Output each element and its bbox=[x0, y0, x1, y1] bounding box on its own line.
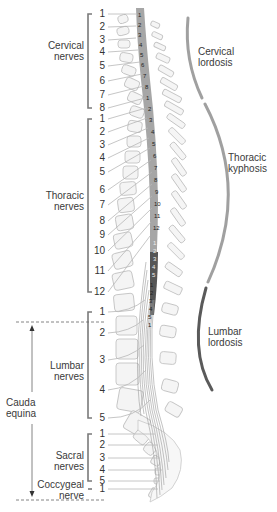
cord-segment-number: 2 bbox=[153, 248, 156, 254]
sacral-nerve-number: 1 bbox=[91, 429, 105, 439]
cord-segment-number: 4 bbox=[152, 264, 155, 270]
cervical-nerve-number: 8 bbox=[91, 103, 105, 113]
coccygeal-nerve-label: Coccygeal nerve bbox=[30, 479, 84, 501]
label-line: Lumbar bbox=[32, 360, 84, 371]
cord-segment-number: 2 bbox=[148, 106, 151, 112]
lumbar-nerve-number: 2 bbox=[91, 328, 105, 338]
cord-segment-number: 4 bbox=[151, 129, 154, 135]
cord-segment-number: 4 bbox=[139, 42, 142, 48]
cervical-nerve-number: 3 bbox=[91, 35, 105, 45]
cord-segment-number: 1 bbox=[148, 322, 151, 328]
thoracic-nerve-number: 2 bbox=[91, 127, 105, 137]
thoracic-nerve-number: 1 bbox=[91, 114, 105, 124]
thoracic-nerve-number: 3 bbox=[91, 140, 105, 150]
cord-segment-number: 3 bbox=[149, 117, 152, 123]
lumbar-nerve-number: 1 bbox=[91, 307, 105, 317]
cord-segment-number: 9 bbox=[155, 189, 158, 195]
cord-segment-number: 2 bbox=[138, 22, 141, 28]
lumbar-nerve-number: 3 bbox=[91, 355, 105, 365]
sacral-nerves-label: Sacral nerves bbox=[32, 450, 84, 472]
lumbar-nerves-label: Lumbar nerves bbox=[32, 360, 84, 382]
thoracic-kyphosis-curve bbox=[205, 104, 228, 282]
thoracic-nerve-number: 5 bbox=[91, 167, 105, 177]
cervical-nerve-number: 4 bbox=[91, 47, 105, 57]
label-line: nerves bbox=[32, 461, 84, 472]
thoracic-nerve-number: 11 bbox=[91, 266, 105, 276]
thoracic-nerve-number: 8 bbox=[91, 216, 105, 226]
sacral-nerve-number: 3 bbox=[91, 453, 105, 463]
coccygeal-nerve-number: 1 bbox=[91, 484, 105, 494]
diagram-graphics bbox=[0, 0, 277, 512]
cord-segment-number: 4 bbox=[149, 306, 152, 312]
cord-segment-number: 3 bbox=[153, 256, 156, 262]
cord-segment-number: 3 bbox=[138, 32, 141, 38]
label-line: Cervical bbox=[32, 40, 84, 51]
label-line: lordosis bbox=[198, 57, 234, 68]
label-line: Thoracic bbox=[32, 190, 84, 201]
label-line: Sacral bbox=[32, 450, 84, 461]
cord-segment-number: 1 bbox=[150, 282, 153, 288]
cord-segment-number: 5 bbox=[152, 272, 155, 278]
cord-segment-number: 8 bbox=[145, 84, 148, 90]
cord-segment-number: 10 bbox=[154, 201, 161, 207]
cervical-nerve-number: 2 bbox=[91, 22, 105, 32]
label-line: nerves bbox=[32, 371, 84, 382]
label-line: nerves bbox=[32, 51, 84, 62]
label-line: Cauda bbox=[6, 397, 58, 408]
sacral-nerve-number: 2 bbox=[91, 440, 105, 450]
thoracic-nerves-label: Thoracic nerves bbox=[32, 190, 84, 212]
thoracic-kyphosis-label: Thoracic kyphosis bbox=[228, 152, 267, 174]
cord-segment-number: 3 bbox=[149, 298, 152, 304]
cord-segment-number: 1 bbox=[153, 240, 156, 246]
cervical-nerve-number: 1 bbox=[91, 9, 105, 19]
cervical-nerve-number: 6 bbox=[91, 76, 105, 86]
thoracic-nerve-number: 4 bbox=[91, 153, 105, 163]
cord-segment-number: 1 bbox=[146, 95, 149, 101]
thoracic-nerve-number: 6 bbox=[91, 185, 105, 195]
label-line: Thoracic bbox=[228, 152, 267, 163]
cord-segment-number: 12 bbox=[153, 225, 160, 231]
cord-segment-number: 7 bbox=[154, 165, 157, 171]
label-line: equina bbox=[6, 408, 58, 419]
cervical-nerve-number: 5 bbox=[91, 61, 105, 71]
cord-segment-number: 11 bbox=[154, 213, 160, 219]
thoracic-nerve-number: 10 bbox=[91, 246, 105, 256]
label-line: nerves bbox=[32, 201, 84, 212]
label-line: Coccygeal bbox=[30, 479, 84, 490]
lumbar-lordosis-label: Lumbar lordosis bbox=[208, 326, 242, 348]
thoracic-nerve-number: 9 bbox=[91, 230, 105, 240]
lumbar-nerve-number: 4 bbox=[91, 385, 105, 395]
cord-segment-number: 5 bbox=[148, 314, 151, 320]
cervical-nerve-number: 7 bbox=[91, 90, 105, 100]
cord-segment-number: 1 bbox=[138, 12, 141, 18]
label-line: lordosis bbox=[208, 337, 242, 348]
cord-segment-number: 7 bbox=[143, 73, 146, 79]
cord-segment-number: 8 bbox=[154, 177, 157, 183]
label-line: nerve bbox=[30, 490, 84, 501]
cervical-lordosis-label: Cervical lordosis bbox=[198, 46, 234, 68]
cord-segment-number: 5 bbox=[140, 52, 143, 58]
thoracic-nerve-number: 7 bbox=[91, 200, 105, 210]
lumbar-nerve-number: 5 bbox=[91, 413, 105, 423]
thoracic-nerve-number: 12 bbox=[91, 287, 105, 297]
sacral-nerve-number: 4 bbox=[91, 465, 105, 475]
cord-segment-number: 6 bbox=[153, 153, 156, 159]
cord-segment-number: 5 bbox=[152, 141, 155, 147]
spinal-nerves-diagram: Cervical nerves Thoracic nerves Lumbar n… bbox=[0, 0, 277, 512]
cord-segment-number: 2 bbox=[150, 290, 153, 296]
cauda-equina-label: Cauda equina bbox=[6, 397, 58, 419]
cord-segment-number: 6 bbox=[141, 62, 144, 68]
label-line: Cervical bbox=[198, 46, 234, 57]
label-line: Lumbar bbox=[208, 326, 242, 337]
label-line: kyphosis bbox=[228, 163, 267, 174]
cervical-nerves-label: Cervical nerves bbox=[32, 40, 84, 62]
